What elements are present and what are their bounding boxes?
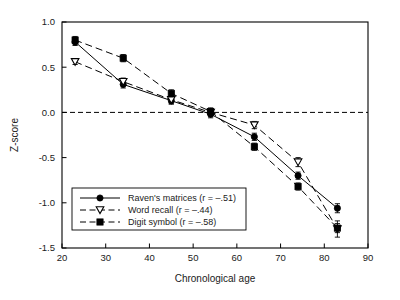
x-axis-title: Chronological age (175, 273, 256, 284)
legend-label: Digit symbol (r = –.58) (128, 217, 216, 227)
x-tick-label: 30 (100, 252, 111, 263)
chart-legend: Raven's matrices (r = –.51)Word recall (… (72, 188, 246, 230)
y-axis-title: Z-score (9, 118, 20, 152)
z-score-vs-age-line-chart: 2030405060708090 1.00.50.0-0.5-1.0-1.5 R… (0, 0, 400, 300)
chart-figure: 2030405060708090 1.00.50.0-0.5-1.0-1.5 R… (0, 0, 400, 300)
x-tick-label: 70 (275, 252, 286, 263)
y-tick-label: -1.0 (39, 197, 55, 208)
x-tick-label: 50 (188, 252, 199, 263)
y-tick-label: -0.5 (39, 152, 55, 163)
y-tick-label: 0.5 (42, 62, 55, 73)
x-tick-label: 90 (363, 252, 374, 263)
y-tick-label: 0.0 (42, 107, 55, 118)
y-tick-label: 1.0 (42, 16, 55, 27)
x-tick-label: 20 (57, 252, 68, 263)
y-tick-label: -1.5 (39, 242, 55, 253)
legend-item-1: Word recall (r = –.44) (80, 205, 213, 215)
x-tick-label: 40 (144, 252, 155, 263)
x-tick-label: 80 (319, 252, 330, 263)
legend-label: Word recall (r = –.44) (128, 205, 213, 215)
x-tick-label: 60 (232, 252, 243, 263)
legend-label: Raven's matrices (r = –.51) (128, 193, 236, 203)
